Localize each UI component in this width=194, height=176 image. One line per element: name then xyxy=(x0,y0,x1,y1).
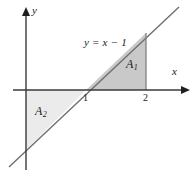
y-axis-label: y xyxy=(32,5,37,16)
figure-canvas xyxy=(0,0,194,176)
equation-label: y = x − 1 xyxy=(84,37,127,48)
region-a2-letter: A xyxy=(35,104,42,118)
region-a2-shape xyxy=(26,90,86,150)
x-axis-label: x xyxy=(172,66,177,77)
x-axis-tick-label-1: 1 xyxy=(83,93,88,103)
region-a1-label: A1 xyxy=(126,58,138,72)
region-a2-label: A2 xyxy=(35,105,47,119)
region-a1-letter: A xyxy=(126,57,133,71)
figure-coordinate-plane: y = x − 1 A1 A2 x y 1 2 xyxy=(0,0,194,176)
region-a1-subscript: 1 xyxy=(134,63,138,72)
x-axis-tick-label-2: 2 xyxy=(143,93,148,103)
x-axis-arrowhead-icon xyxy=(181,86,190,94)
region-a2-subscript: 2 xyxy=(43,110,47,119)
line-y-equals-x-minus-1 xyxy=(9,7,179,167)
y-axis-arrowhead-icon xyxy=(22,7,30,16)
